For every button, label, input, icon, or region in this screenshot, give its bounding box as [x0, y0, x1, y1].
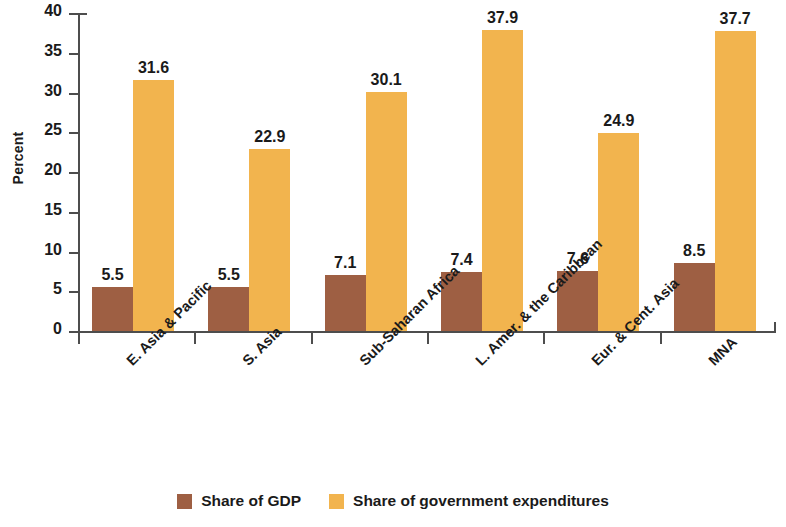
x-axis-tick [543, 333, 545, 344]
x-axis-right-cap [774, 322, 776, 333]
y-axis-tick-label: 20 [44, 161, 62, 179]
y-axis-line [78, 13, 80, 332]
x-axis-tick [78, 333, 80, 344]
bar[interactable]: 5.5 [92, 287, 133, 331]
legend-label: Share of government expenditures [353, 492, 609, 510]
legend-item[interactable]: Share of GDP [177, 492, 301, 510]
bar[interactable]: 31.6 [133, 80, 174, 331]
y-axis-tick: 10 [69, 252, 78, 254]
y-axis-tick: 15 [69, 212, 78, 214]
bar-value-label: 24.9 [603, 112, 634, 130]
bar-value-label: 37.9 [487, 9, 518, 27]
x-axis-tick [194, 333, 196, 344]
y-axis-tick: 25 [69, 132, 78, 134]
bar[interactable]: 7.1 [325, 275, 366, 331]
y-axis-tick-label: 0 [53, 320, 62, 338]
y-axis-tick: 30 [69, 93, 78, 95]
bar-value-label: 7.1 [334, 254, 356, 272]
bar[interactable]: 30.1 [366, 92, 407, 331]
legend-label: Share of GDP [201, 492, 301, 510]
x-axis-tick [660, 333, 662, 344]
bar[interactable]: 22.9 [249, 149, 290, 331]
x-axis-tick [427, 333, 429, 344]
y-axis-tick: 35 [69, 53, 78, 55]
bar[interactable]: 5.5 [208, 287, 249, 331]
bar-value-label: 8.5 [683, 242, 705, 260]
y-axis-tick-label: 10 [44, 241, 62, 259]
x-axis-category-label: MNA [705, 334, 740, 369]
bar-value-label: 5.5 [218, 266, 240, 284]
chart-legend: Share of GDPShare of government expendit… [0, 492, 786, 510]
y-axis-tick-label: 30 [44, 82, 62, 100]
legend-swatch [177, 494, 192, 509]
bar[interactable]: 8.5 [674, 263, 715, 331]
bar-chart: Percent 0510152025303540 5.531.65.522.97… [0, 0, 786, 527]
bar-value-label: 37.7 [720, 10, 751, 28]
y-axis-tick: 20 [69, 172, 78, 174]
y-axis-tick: 5 [69, 291, 78, 293]
bar-value-label: 30.1 [371, 71, 402, 89]
bar[interactable]: 24.9 [598, 133, 639, 331]
bar-value-label: 31.6 [138, 59, 169, 77]
y-axis-tick: 0 [69, 331, 78, 333]
y-axis-top-cap [78, 13, 87, 15]
bar[interactable]: 37.7 [715, 31, 756, 331]
bar-value-label: 5.5 [101, 266, 123, 284]
bar[interactable]: 37.9 [482, 30, 523, 331]
legend-swatch [329, 494, 344, 509]
x-axis-tick [311, 333, 313, 344]
bar-value-label: 22.9 [254, 128, 285, 146]
y-axis-title: Percent [10, 118, 26, 198]
y-axis-tick: 40 [69, 13, 78, 15]
y-axis-tick-label: 35 [44, 42, 62, 60]
y-axis-tick-label: 5 [53, 280, 62, 298]
y-axis-tick-label: 25 [44, 121, 62, 139]
y-axis-tick-label: 40 [44, 2, 62, 20]
legend-item[interactable]: Share of government expenditures [329, 492, 609, 510]
y-axis-tick-label: 15 [44, 201, 62, 219]
